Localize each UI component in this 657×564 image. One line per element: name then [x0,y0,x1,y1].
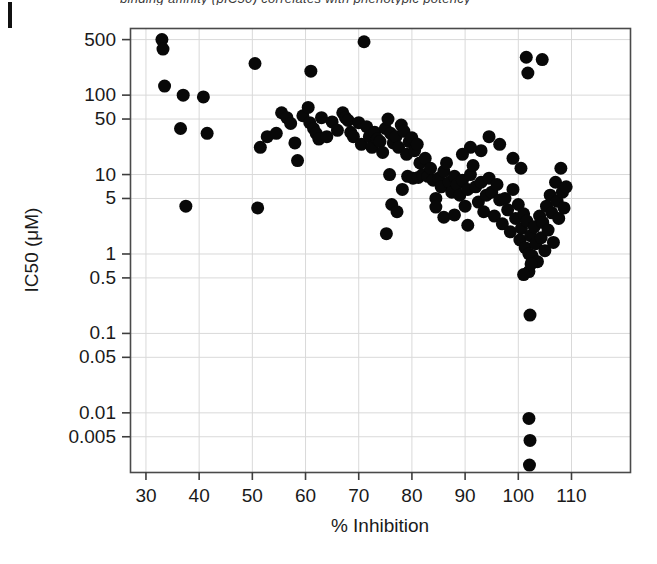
x-axis-title: % Inhibition [331,515,429,536]
y-axis-tick-labels: 5001005010510.50.10.050.010.005 [68,29,116,447]
data-point [524,434,537,447]
data-point [456,148,469,161]
data-point [493,138,506,151]
data-point [459,200,472,213]
scatter-plot: 30405060708090100110 5001005010510.50.10… [0,0,657,564]
data-point [506,183,519,196]
data-point [179,200,192,213]
data-point [461,219,474,232]
data-point [177,89,190,102]
data-point [156,43,169,56]
y-tick-label: 10 [95,164,116,185]
data-point [251,201,264,214]
data-point [376,146,389,159]
data-point [558,201,571,214]
data-point [288,136,301,149]
x-tick-label: 50 [242,485,263,506]
y-axis-title: IC50 (μM) [21,208,42,293]
x-tick-label: 80 [401,485,422,506]
y-tick-label: 50 [95,108,116,129]
data-point [536,53,549,66]
data-point [174,122,187,135]
y-axis-ticks [122,40,130,437]
y-tick-label: 5 [105,187,116,208]
data-point [440,156,453,169]
data-point [560,180,573,193]
x-tick-label: 40 [189,485,210,506]
data-point [547,236,560,249]
data-point [542,224,555,237]
y-tick-label: 0.1 [90,322,116,343]
data-points-layer [155,33,572,471]
y-tick-label: 0.005 [68,426,116,447]
data-point [396,183,409,196]
data-point [491,178,504,191]
data-point [411,138,424,151]
y-tick-label: 0.5 [90,267,116,288]
data-point [358,35,371,48]
y-tick-label: 100 [84,84,116,105]
data-point [467,159,480,172]
y-tick-label: 0.01 [79,402,116,423]
data-point [254,141,267,154]
data-point [429,201,442,214]
y-tick-label: 500 [84,29,116,50]
data-point [201,127,214,140]
x-tick-label: 70 [348,485,369,506]
x-tick-label: 110 [556,485,586,506]
x-tick-label: 100 [502,485,534,506]
x-tick-label: 30 [135,485,156,506]
data-point [284,117,297,130]
data-point [270,127,283,140]
data-point [302,101,315,114]
data-point [514,162,527,175]
y-tick-label: 1 [105,243,116,264]
data-point [381,113,394,126]
data-point [524,309,537,322]
x-tick-label: 60 [295,485,316,506]
data-point [525,257,538,270]
data-point [523,459,536,472]
data-point [249,57,262,70]
y-tick-label: 0.05 [79,346,116,367]
data-point [520,51,533,64]
data-point [374,135,387,148]
data-point [517,268,530,281]
data-point [197,90,210,103]
data-point [291,154,304,167]
data-point [391,205,404,218]
data-point [383,168,396,181]
figure-page: binding affinity (pIC50) correlates with… [0,0,657,564]
data-point [522,412,535,425]
data-point [554,162,567,175]
data-point [380,227,393,240]
data-point [304,65,317,78]
data-point [158,80,171,93]
x-tick-label: 90 [455,485,476,506]
data-point [448,208,461,221]
x-axis-tick-labels: 30405060708090100110 [135,485,586,506]
data-point [331,124,344,137]
data-point [483,130,496,143]
data-point [521,66,534,79]
